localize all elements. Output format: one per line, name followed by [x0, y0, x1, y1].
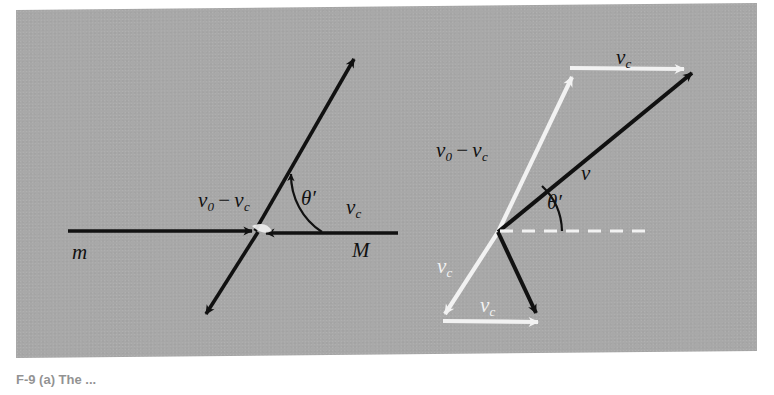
right-black-vector-v-resultant: [498, 73, 692, 232]
right-diagram-group: [443, 68, 692, 322]
label-theta-left: θ′: [301, 188, 316, 209]
left-collision-highlight: [252, 224, 272, 233]
figure-root: v0−vc m vc M θ′ vc v0−vc v θ′ vc vc F-9 …: [0, 0, 774, 395]
label-vc-target: vc: [346, 197, 361, 220]
right-black-vector-scattered: [498, 232, 536, 313]
label-mass-m: m: [72, 242, 87, 263]
left-outgoing-arrow-lower-left: [206, 232, 258, 314]
label-vc-left-right-diagram: vc: [437, 256, 452, 279]
label-v0-minus-vc-right: v0−vc: [436, 140, 488, 163]
figure-caption: F-9 (a) The ...: [16, 372, 516, 392]
label-v0-minus-vc-left: v0−vc: [198, 190, 250, 213]
left-diagram-group: [68, 59, 398, 314]
label-theta-right: θ′: [547, 192, 562, 213]
label-vc-top-right: vc: [616, 47, 631, 70]
right-white-vector-vc-bottom: [443, 321, 538, 322]
label-v-resultant: v: [581, 163, 590, 184]
label-mass-M: M: [352, 240, 370, 261]
vector-diagram-canvas: [0, 0, 774, 395]
label-vc-bottom-right-diagram: vc: [480, 295, 495, 318]
